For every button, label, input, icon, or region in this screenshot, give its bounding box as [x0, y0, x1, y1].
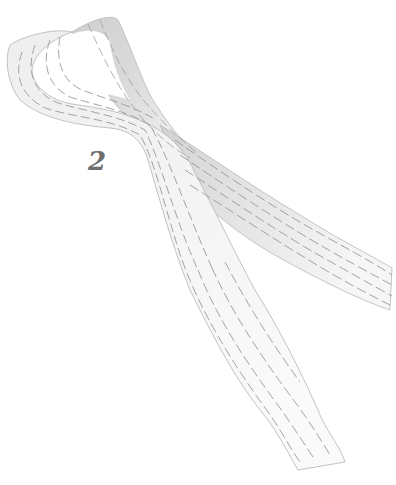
ribbon-drawing — [0, 0, 396, 485]
step-number-label: 2 — [88, 148, 106, 174]
ribbon-illustration: 2 — [0, 0, 396, 485]
